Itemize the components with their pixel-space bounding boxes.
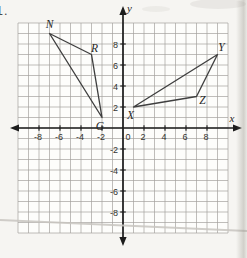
vertex-label-G: G [96, 120, 105, 132]
y-axis-down-arrow-icon [119, 237, 126, 246]
x-tick-label: 4 [161, 132, 166, 142]
x-axis-label: x [229, 112, 235, 124]
y-tick-label: 6 [113, 61, 118, 71]
y-tick-label: -8 [110, 208, 118, 218]
vertex-label-R: R [90, 42, 98, 54]
y-tick-label: -6 [110, 187, 118, 197]
coordinate-plane: -8-6-4-202468-8-6-4-22468xyNRGXYZ [0, 0, 247, 258]
y-tick-label: -4 [110, 166, 118, 176]
x-axis-left-arrow-icon [10, 124, 19, 131]
y-axis-label: y [126, 2, 132, 14]
y-tick-label: 4 [113, 82, 118, 92]
x-tick-label: 6 [182, 132, 187, 142]
x-tick-label: -8 [34, 132, 42, 142]
x-tick-label: -4 [76, 132, 84, 142]
origin-label: 0 [125, 132, 130, 142]
x-tick-label: 2 [140, 132, 145, 142]
vertex-label-X: X [126, 109, 135, 121]
y-tick-label: 2 [113, 103, 118, 113]
x-tick-label: 8 [203, 132, 208, 142]
y-tick-label: -2 [110, 145, 118, 155]
vertex-label-N: N [45, 18, 55, 30]
scan-artifact-smudge [142, 6, 170, 12]
x-tick-label: -6 [55, 132, 63, 142]
y-axis-up-arrow-icon [119, 6, 126, 15]
vertex-label-Z: Z [199, 94, 206, 106]
y-tick-label: 8 [113, 40, 118, 50]
page-edge-shadow [236, 0, 247, 258]
x-tick-label: -2 [97, 132, 105, 142]
scanned-graph-page: 1. -8-6-4-202468-8-6-4-22468xyNRGXYZ [0, 0, 247, 258]
